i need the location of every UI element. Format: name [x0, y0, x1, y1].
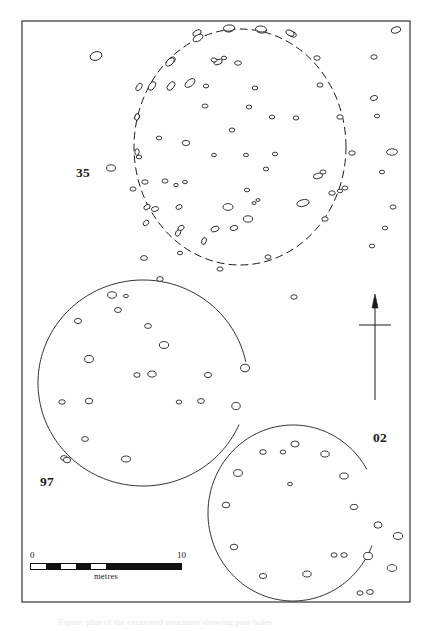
scale-segment-8: [151, 564, 166, 569]
structure-label-97: 97: [40, 474, 54, 490]
scale-label-max: 10: [177, 550, 186, 560]
scale-segment-2: [61, 564, 76, 569]
north-arrow-graphic: [359, 294, 391, 400]
scale-segment-9: [166, 564, 181, 569]
scale-bar-unit-label: metres: [30, 571, 182, 581]
scale-segment-5: [106, 564, 121, 569]
scale-bar-numbers: 0 10: [30, 550, 186, 562]
structure-label-02: 02: [373, 430, 387, 446]
scale-bar-segments: [30, 563, 182, 570]
scale-segment-0: [31, 564, 46, 569]
scale-segment-7: [136, 564, 151, 569]
scale-segment-1: [46, 564, 61, 569]
plan-drawing-canvas: [0, 0, 430, 631]
posthole-group: [59, 25, 403, 596]
scale-bar: 0 10 metres: [30, 550, 186, 581]
scale-segment-4: [91, 564, 106, 569]
scale-segment-6: [121, 564, 136, 569]
scale-label-min: 0: [30, 550, 35, 560]
enclosure-outlines: [38, 29, 372, 601]
structure-label-35: 35: [76, 165, 90, 181]
scale-segment-3: [76, 564, 91, 569]
plan-frame: [22, 21, 410, 602]
figure-caption: Figure: plan of the excavated structures…: [58, 617, 388, 627]
site-plan-figure: 35 97 02 0 10 metres Figure: plan of the…: [0, 0, 430, 631]
